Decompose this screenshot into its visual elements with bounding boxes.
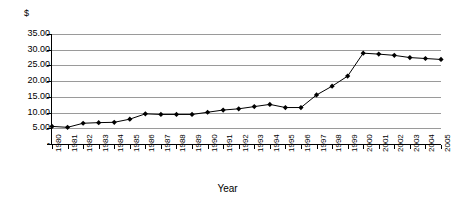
- y-axis-tick-mark: [47, 113, 52, 114]
- data-point-marker: [423, 56, 428, 61]
- y-axis-tick-mark: [47, 65, 52, 66]
- x-axis-tick-mark: [410, 145, 411, 149]
- x-axis-tick-label: 1980: [55, 134, 63, 152]
- x-axis-tick-mark: [52, 145, 53, 149]
- line-chart: $ 35.0030.0025.0020.0015.0010.005.00- 19…: [0, 0, 455, 211]
- data-point-marker: [81, 121, 86, 126]
- data-point-marker: [158, 112, 163, 117]
- x-axis-tick-mark: [425, 145, 426, 149]
- x-axis-tick-label: 1985: [133, 134, 141, 152]
- data-point-marker: [65, 125, 70, 130]
- data-point-marker: [392, 53, 397, 58]
- x-axis-tick-label: 1983: [102, 134, 110, 152]
- x-axis-tick-mark: [145, 145, 146, 149]
- x-axis-tick-label: 2003: [413, 134, 421, 152]
- x-axis-tick-label: 1981: [71, 134, 79, 152]
- x-axis-tick-mark: [285, 145, 286, 149]
- data-point-marker: [112, 120, 117, 125]
- data-point-marker: [329, 84, 334, 89]
- x-axis-tick-mark: [208, 145, 209, 149]
- series-line: [52, 53, 441, 127]
- x-axis-tick-label: 1990: [211, 134, 219, 152]
- x-axis-tick-mark: [348, 145, 349, 149]
- data-point-marker: [438, 57, 443, 62]
- x-axis-tick-label: 2001: [382, 134, 390, 152]
- x-axis-title: Year: [0, 183, 455, 194]
- data-point-marker: [407, 55, 412, 60]
- data-point-marker: [376, 52, 381, 57]
- x-axis-tick-mark: [114, 145, 115, 149]
- x-axis-tick-label: 1982: [86, 134, 94, 152]
- data-point-marker: [96, 120, 101, 125]
- data-point-marker: [189, 112, 194, 117]
- x-axis-tick-label: 2004: [428, 134, 436, 152]
- data-series-layer: [0, 0, 455, 211]
- x-axis-tick-mark: [192, 145, 193, 149]
- x-axis-tick-mark: [317, 145, 318, 149]
- y-axis-tick-mark: [47, 97, 52, 98]
- x-axis-tick-label: 1987: [164, 134, 172, 152]
- x-axis-tick-mark: [270, 145, 271, 149]
- x-axis-tick-mark: [176, 145, 177, 149]
- x-axis-tick-label: 1999: [351, 134, 359, 152]
- x-axis-tick-label: 1988: [179, 134, 187, 152]
- x-axis-tick-label: 1986: [148, 134, 156, 152]
- x-axis-tick-mark: [363, 145, 364, 149]
- x-axis-tick-mark: [239, 145, 240, 149]
- data-point-marker: [205, 110, 210, 115]
- y-axis-tick-mark: [47, 81, 52, 82]
- x-axis-tick-label: 1997: [320, 134, 328, 152]
- x-axis-tick-mark: [83, 145, 84, 149]
- data-point-marker: [127, 117, 132, 122]
- x-axis-tick-mark: [394, 145, 395, 149]
- x-axis-tick-label: 1994: [273, 134, 281, 152]
- x-axis-tick-label: 1992: [242, 134, 250, 152]
- y-axis-tick-mark: [47, 128, 52, 129]
- x-axis-tick-mark: [161, 145, 162, 149]
- x-axis-tick-mark: [379, 145, 380, 149]
- x-axis-tick-label: 1998: [335, 134, 343, 152]
- data-point-marker: [252, 104, 257, 109]
- x-axis-tick-mark: [301, 145, 302, 149]
- series-markers: [49, 51, 443, 130]
- x-axis-tick-label: 1984: [117, 134, 125, 152]
- x-axis-tick-mark: [130, 145, 131, 149]
- data-point-marker: [221, 107, 226, 112]
- x-axis-tick-label: 2005: [444, 134, 452, 152]
- x-axis-tick-label: 1991: [226, 134, 234, 152]
- x-axis-tick-mark: [332, 145, 333, 149]
- x-axis-tick-label: 1993: [257, 134, 265, 152]
- x-axis-tick-label: 2002: [397, 134, 405, 152]
- data-point-marker: [283, 105, 288, 110]
- data-point-marker: [267, 102, 272, 107]
- data-point-marker: [174, 112, 179, 117]
- y-axis-tick-mark: [47, 50, 52, 51]
- data-point-marker: [236, 106, 241, 111]
- x-axis-tick-label: 1995: [288, 134, 296, 152]
- x-axis-tick-mark: [441, 145, 442, 149]
- y-axis-tick-mark: [47, 34, 52, 35]
- x-axis-tick-mark: [254, 145, 255, 149]
- x-axis-tick-mark: [223, 145, 224, 149]
- x-axis-tick-mark: [68, 145, 69, 149]
- x-axis-tick-label: 1996: [304, 134, 312, 152]
- x-axis-tick-label: 2000: [366, 134, 374, 152]
- data-point-marker: [143, 111, 148, 116]
- x-axis-tick-mark: [99, 145, 100, 149]
- x-axis-tick-label: 1989: [195, 134, 203, 152]
